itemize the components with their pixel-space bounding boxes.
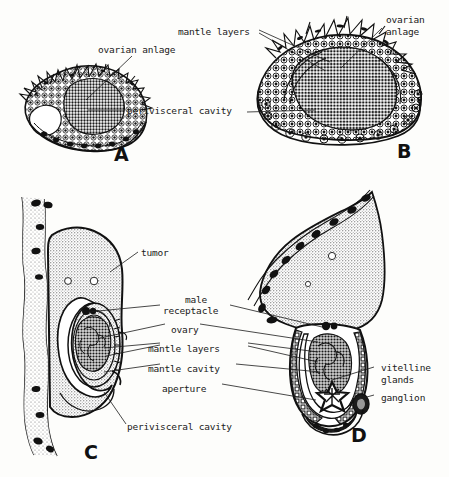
label-ganglion: ganglion	[381, 392, 425, 403]
label-ovary: ovary	[171, 324, 199, 335]
panel-letter-a: A	[114, 145, 129, 164]
panel-letter-d: D	[351, 426, 367, 445]
label-perivisceral-cavity-a: perivisceral cavity	[127, 105, 232, 116]
label-mantle-layers-b: mantle layers	[178, 26, 250, 37]
label-male-receptacle-line2: receptacle	[163, 305, 218, 316]
panel-a-illustration	[20, 50, 170, 155]
label-mantle-cavity: mantle cavity	[148, 363, 220, 374]
anatomical-figure-plate: ovarian anlage perivisceral cavity mantl…	[0, 0, 449, 477]
panel-d-illustration	[240, 182, 425, 442]
label-ovarian-anlage-a: ovarian anlage	[98, 44, 175, 55]
label-perivisceral-cavity-c: perivisceral cavity	[127, 421, 232, 432]
label-ovarian-anlage-b-line2: anlage	[386, 26, 419, 37]
panel-c-illustration	[14, 193, 174, 458]
label-male-line1: male	[185, 294, 207, 305]
label-vitelline-line1: vitelline	[381, 362, 431, 373]
label-tumor-c: tumor	[141, 247, 169, 258]
label-aperture: aperture	[162, 383, 206, 394]
label-ovarian-anlage-b-line1: ovarian	[386, 14, 425, 25]
label-vitelline-glands-line2: glands	[381, 374, 414, 385]
leader-lines-overlay	[0, 0, 449, 477]
label-mantle-layers-cd: mantle layers	[148, 343, 220, 354]
panel-letter-c: C	[84, 443, 98, 462]
panel-letter-b: B	[397, 142, 411, 161]
